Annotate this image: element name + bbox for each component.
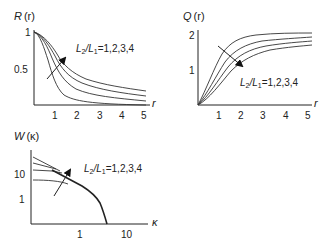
q-ytick-1: 1: [189, 65, 195, 76]
r-curve-3: [34, 32, 146, 96]
r-curve-4: [34, 32, 146, 91]
w-xlabel: κ: [152, 216, 158, 228]
w-panel: W(κ) κ 10 1 1 10 L2/L1=1,2,3,4: [14, 130, 158, 240]
q-curve-4: [198, 45, 312, 105]
w-xtick-1: 1: [77, 229, 83, 240]
r-panel: R(r) r 1 0.5 1 2 3 4 5 L2/L1=1,2,3,4: [14, 10, 157, 121]
q-xtick-4: 4: [283, 110, 289, 121]
q-xtick-2: 2: [238, 110, 244, 121]
q-ylabel: Q(r): [183, 10, 205, 22]
w-annotation: L2/L1=1,2,3,4: [84, 163, 143, 175]
w-common-curve: [52, 170, 107, 224]
w-ytick-1: 1: [19, 194, 25, 205]
q-xtick-1: 1: [216, 110, 222, 121]
q-panel: Q(r) r 2 1 1 2 3 4 5 L2/L1=1,2,3,4: [183, 10, 319, 121]
q-xlabel: r: [314, 97, 319, 109]
q-curve-1: [198, 33, 312, 105]
q-annotation: L2/L1=1,2,3,4: [240, 77, 299, 89]
q-curve-3: [198, 41, 312, 105]
r-annotation: L2/L1=1,2,3,4: [76, 43, 135, 55]
q-xtick-5: 5: [305, 110, 311, 121]
r-xtick-4: 4: [119, 110, 125, 121]
r-ytick-05: 0.5: [14, 64, 28, 75]
w-ylabel: W(κ): [14, 130, 39, 142]
q-ytick-2: 2: [189, 30, 195, 41]
r-xlabel: r: [152, 97, 157, 109]
r-xtick-1: 1: [52, 110, 58, 121]
figure: R(r) r 1 0.5 1 2 3 4 5 L2/L1=1,2,3,4 Q(r…: [0, 0, 329, 245]
w-trend-arrow: [54, 170, 70, 196]
w-xtick-10: 10: [121, 229, 133, 240]
q-trend-arrow: [218, 46, 242, 66]
q-curve-2: [198, 37, 312, 105]
r-xtick-2: 2: [74, 110, 80, 121]
w-curve-3: [33, 163, 56, 169]
r-xtick-5: 5: [141, 110, 147, 121]
q-xtick-3: 3: [260, 110, 266, 121]
r-ytick-1: 1: [25, 27, 31, 38]
r-xtick-3: 3: [97, 110, 103, 121]
r-ylabel: R(r): [14, 10, 35, 22]
w-ytick-10: 10: [14, 169, 26, 180]
